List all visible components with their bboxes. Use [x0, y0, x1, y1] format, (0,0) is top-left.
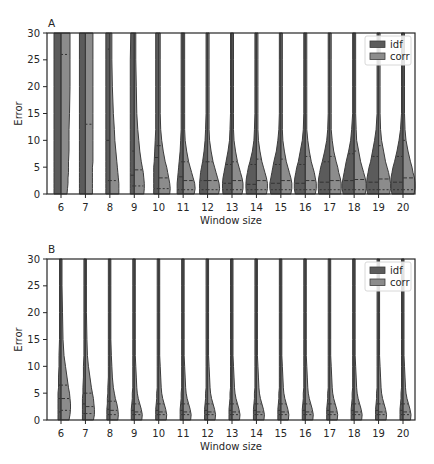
violin-idf-15 — [270, 33, 281, 194]
x-axis-label: Window size — [200, 215, 262, 226]
violin-corr-18 — [354, 33, 366, 194]
violin-corr-7 — [85, 259, 94, 420]
legend-swatch-corr — [370, 279, 385, 286]
y-tick-label: 25 — [27, 280, 40, 291]
x-tick-label: 15 — [274, 202, 287, 213]
x-tick-label: 13 — [226, 202, 239, 213]
violin-corr-13 — [232, 259, 240, 420]
legend-label-idf: idf — [390, 39, 403, 50]
legend-swatch-idf — [370, 41, 385, 48]
x-tick-label: 7 — [82, 428, 88, 439]
y-tick-label: 0 — [34, 415, 40, 426]
x-tick-label: 12 — [201, 202, 214, 213]
violin-corr-15 — [281, 259, 289, 420]
x-tick-label: 17 — [323, 202, 336, 213]
legend-label-idf: idf — [390, 265, 403, 276]
x-tick-label: 17 — [323, 428, 336, 439]
y-tick-label: 20 — [27, 307, 40, 318]
x-tick-label: 16 — [299, 202, 312, 213]
violin-corr-11 — [183, 33, 195, 194]
violin-idf-8 — [106, 33, 110, 194]
violin-corr-10 — [159, 259, 167, 420]
x-tick-label: 18 — [348, 428, 361, 439]
x-tick-label: 7 — [82, 202, 88, 213]
violin-figure: 05101520253067891011121314151617181920Wi… — [0, 0, 434, 464]
panel-a: 05101520253067891011121314151617181920Wi… — [13, 17, 415, 226]
violin-corr-11 — [183, 259, 191, 420]
legend-label-corr: corr — [390, 277, 411, 288]
y-tick-label: 20 — [27, 81, 40, 92]
x-tick-label: 14 — [250, 202, 263, 213]
x-tick-label: 19 — [372, 202, 385, 213]
x-tick-label: 6 — [58, 202, 64, 213]
violin-idf-17 — [318, 33, 330, 194]
violin-idf-11 — [177, 33, 183, 194]
violin-corr-14 — [256, 33, 267, 194]
y-tick-label: 15 — [27, 334, 40, 345]
violin-idf-10 — [154, 33, 159, 194]
x-axis-label: Window size — [200, 441, 262, 452]
panel-b: 05101520253067891011121314151617181920Wi… — [13, 243, 415, 452]
x-tick-label: 11 — [177, 202, 190, 213]
violin-idf-14 — [246, 33, 256, 194]
violin-corr-7 — [85, 33, 93, 194]
y-tick-label: 10 — [27, 135, 40, 146]
violin-idf-12 — [200, 33, 208, 194]
x-tick-label: 9 — [131, 428, 137, 439]
legend-swatch-idf — [370, 267, 385, 274]
legend-label-corr: corr — [390, 51, 411, 62]
x-tick-label: 8 — [107, 428, 113, 439]
violin-corr-6 — [61, 33, 70, 194]
y-axis-label: Error — [13, 326, 24, 351]
violin-corr-14 — [256, 259, 264, 420]
violin-corr-6 — [61, 259, 71, 420]
violin-corr-8 — [110, 33, 119, 194]
panel-label: B — [48, 243, 55, 255]
x-tick-label: 16 — [299, 428, 312, 439]
violin-idf-13 — [223, 33, 233, 194]
violin-corr-10 — [159, 33, 171, 194]
x-tick-label: 13 — [226, 428, 239, 439]
y-tick-label: 30 — [27, 254, 40, 265]
y-tick-label: 0 — [34, 189, 40, 200]
y-axis-label: Error — [13, 100, 24, 125]
violin-corr-18 — [354, 259, 362, 420]
x-tick-label: 6 — [58, 428, 64, 439]
violin-corr-17 — [330, 259, 338, 420]
violin-idf-6 — [54, 33, 61, 194]
y-tick-label: 10 — [27, 361, 40, 372]
violin-corr-12 — [208, 33, 220, 194]
violin-idf-7 — [79, 33, 85, 194]
x-tick-label: 9 — [131, 202, 137, 213]
violin-corr-9 — [134, 259, 142, 420]
x-tick-label: 11 — [177, 428, 190, 439]
y-tick-label: 5 — [34, 162, 40, 173]
y-tick-label: 30 — [27, 28, 40, 39]
violin-corr-15 — [281, 33, 292, 194]
x-tick-label: 20 — [397, 428, 410, 439]
x-tick-label: 12 — [201, 428, 214, 439]
violin-idf-18 — [342, 33, 354, 194]
x-tick-label: 20 — [397, 202, 410, 213]
x-tick-label: 10 — [152, 202, 165, 213]
violin-corr-16 — [305, 33, 316, 194]
x-tick-label: 14 — [250, 428, 263, 439]
x-tick-label: 18 — [348, 202, 361, 213]
x-tick-label: 15 — [274, 428, 287, 439]
legend-swatch-corr — [370, 53, 385, 60]
violin-corr-16 — [305, 259, 313, 420]
legend: idfcorr — [365, 262, 411, 291]
violin-corr-12 — [208, 259, 216, 420]
violin-corr-17 — [330, 33, 342, 194]
violin-corr-13 — [232, 33, 243, 194]
y-tick-label: 25 — [27, 54, 40, 65]
panel-label: A — [48, 17, 56, 29]
y-tick-label: 5 — [34, 388, 40, 399]
violin-idf-16 — [294, 33, 305, 194]
y-tick-label: 15 — [27, 108, 40, 119]
violin-idf-9 — [130, 33, 134, 194]
violin-corr-8 — [110, 259, 119, 420]
x-tick-label: 10 — [152, 428, 165, 439]
x-tick-label: 8 — [107, 202, 113, 213]
x-tick-label: 19 — [372, 428, 385, 439]
